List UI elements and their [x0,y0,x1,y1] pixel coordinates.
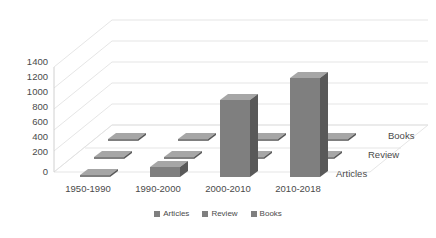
legend-label-review: Review [211,210,237,218]
chart-legend: Articles Review Books [0,210,436,218]
bar-review-1990-2000 [164,151,202,159]
legend-item-books[interactable]: Books [251,210,282,218]
y-tick-800: 800 [8,102,48,112]
legend-swatch-icon-review [202,211,208,217]
legend-label-books: Books [260,210,282,218]
legend-item-articles[interactable]: Articles [154,210,189,218]
x-tick-2000-2010: 2000-2010 [198,184,258,194]
legend-item-review[interactable]: Review [202,210,237,218]
gridlines-back-wall [112,20,428,125]
chart-3d-column: 1400 1200 1000 800 600 400 200 0 1950-19… [0,0,436,238]
y-tick-1400: 1400 [8,57,48,67]
y-tick-0: 0 [8,167,48,177]
y-tick-1200: 1200 [8,72,48,82]
x-tick-2010-2018: 2010-2018 [268,184,328,194]
bar-articles-1990-2000 [150,161,188,177]
z-tick-articles: Articles [336,169,367,179]
x-tick-1990-2000: 1990-2000 [128,184,188,194]
x-tick-1950-1990: 1950-1990 [58,184,118,194]
bar-articles-2010-2018 [290,72,328,177]
bar-review-1950-1990 [94,151,132,159]
bar-books-1950-1990 [108,133,146,141]
plot-area [0,0,436,238]
y-tick-600: 600 [8,117,48,127]
bar-articles-1950-1990 [80,169,118,177]
y-tick-1000: 1000 [8,87,48,97]
legend-swatch-icon-articles [154,211,160,217]
gridlines-side-wall [54,20,112,172]
y-tick-200: 200 [8,147,48,157]
bar-group-articles [80,72,328,177]
legend-label-articles: Articles [163,210,189,218]
legend-swatch-icon-books [251,211,257,217]
z-tick-books: Books [388,131,414,141]
bar-books-1990-2000 [178,133,216,141]
y-tick-400: 400 [8,132,48,142]
z-tick-review: Review [368,150,399,160]
bar-articles-2000-2010 [220,94,258,177]
